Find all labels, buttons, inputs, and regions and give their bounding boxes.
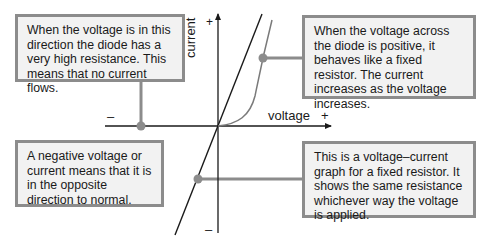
callout-text: When the voltage across the diode is pos… — [314, 24, 449, 111]
callout-dot — [259, 54, 268, 63]
x-axis-minus: – — [107, 109, 114, 124]
y-axis-label: current — [183, 18, 198, 58]
x-axis-label: voltage — [268, 108, 310, 123]
callout-diode-reverse: When the voltage is in this direction th… — [15, 14, 185, 82]
diode-curve — [218, 20, 272, 126]
callout-diode-forward: When the voltage across the diode is pos… — [302, 15, 476, 99]
callout-negative-meaning: A negative voltage or current means that… — [15, 140, 164, 207]
callout-resistor-graph: This is a voltage–current graph for a fi… — [302, 141, 476, 218]
callout-text: This is a voltage–current graph for a fi… — [314, 150, 462, 222]
y-axis-plus: + — [206, 15, 213, 29]
y-axis-minus: – — [205, 222, 212, 237]
callout-text: A negative voltage or current means that… — [27, 149, 151, 207]
callout-dot — [137, 122, 146, 131]
callout-dot — [194, 175, 203, 184]
